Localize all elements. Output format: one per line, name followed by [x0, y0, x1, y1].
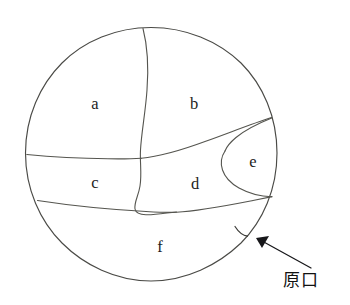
arrow-pointer-icon — [256, 236, 269, 248]
outer-circle-outline — [26, 28, 278, 282]
callout-leader-line — [262, 241, 311, 268]
divider-a-c — [27, 155, 142, 159]
callout-label: 原口 — [283, 270, 318, 290]
figure-root: a b c d e f 原口 — [0, 0, 350, 305]
region-label-f: f — [157, 237, 163, 256]
region-label-c: c — [91, 173, 98, 192]
divider-e-top — [225, 118, 272, 151]
region-label-b: b — [190, 94, 198, 113]
divider-c-f — [38, 197, 273, 213]
diagram-canvas: a b c d e f 原口 — [0, 0, 350, 305]
region-label-e: e — [249, 152, 256, 171]
region-label-d: d — [191, 174, 200, 193]
divider-a-b — [135, 29, 177, 215]
region-label-a: a — [91, 94, 99, 113]
blastopore-notch-icon — [235, 227, 248, 237]
divider-e-left — [221, 151, 271, 197]
